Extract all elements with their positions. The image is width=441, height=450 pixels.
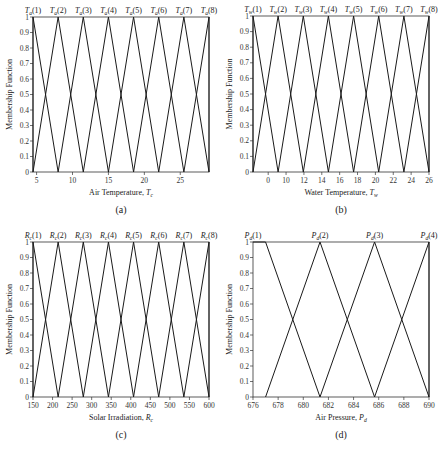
- y-tick-label: 0.4: [20, 106, 30, 115]
- membership-curve-rc4: [83, 242, 133, 397]
- membership-curve-tw5: [328, 16, 378, 172]
- fuzzy-set-label: Ta(2): [50, 6, 67, 16]
- x-tick-label: 12: [300, 176, 308, 185]
- membership-curve-rc6: [134, 242, 184, 397]
- y-tick-label: 0.8: [240, 269, 250, 278]
- y-tick-label: 0.9: [20, 28, 30, 37]
- fuzzy-set-label: Ta(7): [176, 6, 193, 16]
- fuzzy-set-label: Tw(4): [320, 5, 338, 15]
- y-tick-label: 0.4: [240, 105, 250, 114]
- fuzzy-set-label: Rc(1): [24, 231, 42, 241]
- fuzzy-set-label: Ta(3): [75, 6, 92, 16]
- x-axis-label: Water Temperature, Tw: [304, 188, 378, 198]
- fuzzy-set-label: Tw(2): [269, 5, 287, 15]
- fuzzy-set-label: Tw(3): [295, 5, 313, 15]
- y-tick-label: 0: [25, 168, 29, 177]
- x-tick-label: 10: [282, 176, 290, 185]
- y-tick-label: 0.8: [20, 269, 30, 278]
- x-tick-label: 678: [273, 401, 285, 410]
- fuzzy-set-label: Pd(3): [365, 231, 383, 241]
- x-tick-label: 25: [177, 176, 185, 185]
- fuzzy-set-label: Pd(2): [310, 231, 328, 241]
- y-axis-label: Membership Function: [5, 284, 14, 355]
- y-tick-label: 0.9: [240, 27, 250, 36]
- y-tick-label: 0.8: [20, 44, 30, 53]
- membership-curve-ta2: [33, 17, 83, 172]
- x-tick-label: 300: [86, 401, 98, 410]
- membership-curve-tw2: [253, 16, 303, 172]
- y-tick-label: 0.7: [20, 59, 30, 68]
- y-axis-label: Membership Function: [225, 284, 234, 355]
- y-tick-label: 0.7: [240, 58, 250, 67]
- y-tick-label: 0.7: [20, 284, 30, 293]
- x-tick-label: 200: [47, 401, 59, 410]
- panel-label: (b): [335, 204, 347, 216]
- x-tick-label: 10: [69, 176, 77, 185]
- x-tick-label: 18: [354, 176, 362, 185]
- membership-curve-ta3: [58, 17, 108, 172]
- y-tick-label: 0.5: [240, 90, 250, 99]
- x-tick-label: 688: [398, 401, 410, 410]
- membership-curve-tw3: [278, 16, 328, 172]
- y-tick-label: 0.5: [20, 90, 30, 99]
- x-tick-label: 150: [27, 401, 39, 410]
- membership-curve-pd1: [253, 242, 320, 397]
- y-tick-label: 0.1: [20, 152, 30, 161]
- membership-curve-rc3: [58, 242, 108, 397]
- x-axis-label: Air Pressure, Pd: [315, 413, 367, 423]
- x-tick-label: 550: [184, 401, 196, 410]
- x-tick-label: 450: [145, 401, 157, 410]
- x-tick-label: 26: [425, 176, 433, 185]
- x-tick-label: 24: [407, 176, 415, 185]
- membership-curve-pd2: [266, 242, 375, 397]
- y-axis-label: Membership Function: [5, 59, 14, 130]
- fuzzy-set-label: Ta(8): [201, 6, 218, 16]
- x-tick-label: 22: [390, 176, 398, 185]
- x-tick-label: 16: [336, 176, 344, 185]
- y-tick-label: 0.6: [240, 74, 250, 83]
- fuzzy-set-label: Tw(8): [420, 5, 438, 15]
- x-tick-label: 500: [164, 401, 176, 410]
- y-tick-label: 0.2: [20, 137, 30, 146]
- panel-d: 00.10.20.30.40.50.60.70.80.9167667868068…: [225, 231, 438, 441]
- x-tick-label: 0: [266, 176, 270, 185]
- fuzzy-set-label: Tw(7): [395, 5, 413, 15]
- y-tick-label: 0.2: [20, 362, 30, 371]
- membership-curve-pd3: [320, 242, 429, 397]
- membership-curve-ta7: [159, 17, 209, 172]
- y-tick-label: 0.8: [240, 43, 250, 52]
- y-tick-label: 0.3: [240, 346, 250, 355]
- fuzzy-set-label: Ta(6): [150, 6, 167, 16]
- y-tick-label: 0.3: [240, 121, 250, 130]
- x-tick-label: 350: [106, 401, 118, 410]
- y-tick-label: 0.2: [240, 136, 250, 145]
- x-tick-label: 676: [247, 401, 259, 410]
- panel-b: 00.10.20.30.40.50.60.70.80.9101012141618…: [225, 5, 438, 216]
- y-tick-label: 0.2: [240, 362, 250, 371]
- x-axis-label: Solar Irradiation, Rc: [89, 413, 154, 423]
- membership-curve-ta4: [83, 17, 133, 172]
- y-tick-label: 0.9: [240, 253, 250, 262]
- panel-a: 00.10.20.30.40.50.60.70.80.91510152025Ta…: [5, 6, 218, 216]
- membership-curve-rc7: [159, 242, 209, 397]
- fuzzy-set-label: Pd(1): [243, 231, 261, 241]
- y-tick-label: 0.1: [240, 152, 250, 161]
- y-tick-label: 0.3: [20, 346, 30, 355]
- fuzzy-set-label: Rc(5): [124, 231, 142, 241]
- x-tick-label: 690: [423, 401, 435, 410]
- x-tick-label: 15: [105, 176, 113, 185]
- y-tick-label: 0.1: [20, 377, 30, 386]
- fuzzy-set-label: Rc(8): [200, 231, 218, 241]
- fuzzy-set-label: Rc(6): [149, 231, 167, 241]
- y-axis-label: Membership Function: [225, 59, 234, 130]
- x-tick-label: 600: [203, 401, 215, 410]
- membership-function-figure: 00.10.20.30.40.50.60.70.80.91510152025Ta…: [0, 0, 441, 450]
- membership-curve-rc5: [108, 242, 158, 397]
- y-tick-label: 0.6: [240, 300, 250, 309]
- membership-curve-ta5: [108, 17, 158, 172]
- y-tick-label: 0.5: [20, 315, 30, 324]
- x-axis-label: Air Temperature, Tc: [89, 188, 153, 198]
- y-tick-label: 0.6: [20, 75, 30, 84]
- y-tick-label: 0.7: [240, 284, 250, 293]
- plot-frame: [253, 242, 429, 397]
